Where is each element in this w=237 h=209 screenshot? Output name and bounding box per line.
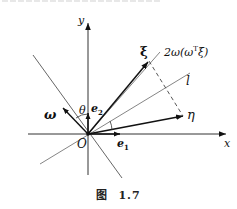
angle-arc <box>110 121 112 130</box>
origin-point <box>86 132 90 136</box>
e2-label: e2 <box>91 103 103 116</box>
x-axis-label: x <box>224 138 230 149</box>
origin-label: O <box>77 138 87 150</box>
y-axis-label: y <box>78 15 84 26</box>
reflection-term-prefix: 2ω(ω <box>164 46 193 59</box>
omega-label: ω <box>44 108 56 121</box>
e1-symbol: e <box>117 137 124 150</box>
eta-vector <box>88 116 183 134</box>
e2-subscript: 2 <box>98 108 103 117</box>
line-l-label: l <box>186 75 190 87</box>
reflection-term-suffix: ξ) <box>198 46 208 59</box>
caption-number: 1.7 <box>118 189 140 202</box>
e1-subscript: 1 <box>124 143 129 152</box>
e2-symbol: e <box>91 102 98 115</box>
diagram-canvas <box>0 0 237 209</box>
e1-label: e1 <box>117 138 129 151</box>
eta-label: η <box>187 108 195 121</box>
theta-label: θ <box>79 105 86 116</box>
reflection-term-label: 2ω(ωTξ) <box>164 46 208 58</box>
xi-vector <box>88 62 148 134</box>
reflection-dashed-line <box>149 61 183 116</box>
figure-caption: 图1.7 <box>0 186 237 202</box>
xi-label: ξ <box>140 45 148 58</box>
caption-prefix: 图 <box>96 189 108 202</box>
